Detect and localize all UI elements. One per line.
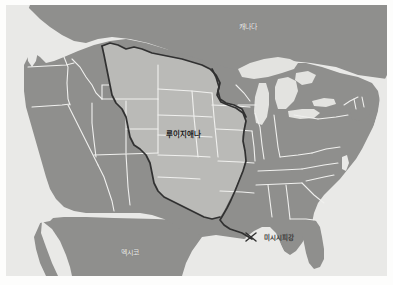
united-states-map-svg [6, 5, 387, 276]
scan-grain-overlay [6, 5, 387, 276]
map-figure: 캐나다 루이지애나 멕시코 미시시피강 [0, 0, 393, 285]
map-canvas: 캐나다 루이지애나 멕시코 미시시피강 [6, 5, 387, 276]
